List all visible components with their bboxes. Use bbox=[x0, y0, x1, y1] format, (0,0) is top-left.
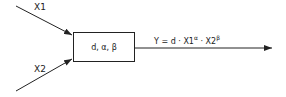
eq-exp-beta: β bbox=[216, 34, 220, 41]
input-label-x1: X1 bbox=[34, 2, 46, 12]
block-parameters: d, α, β bbox=[91, 43, 117, 52]
function-block: d, α, β bbox=[73, 32, 135, 62]
output-equation: Y = d · X1α · X2β bbox=[154, 34, 220, 46]
diagram-lines bbox=[0, 0, 286, 97]
production-function-diagram: X1 X2 d, α, β Y = d · X1α · X2β bbox=[0, 0, 286, 97]
eq-part2: · X2 bbox=[198, 37, 216, 46]
input-label-x2: X2 bbox=[34, 64, 46, 74]
eq-part1: Y = d · X1 bbox=[154, 37, 194, 46]
